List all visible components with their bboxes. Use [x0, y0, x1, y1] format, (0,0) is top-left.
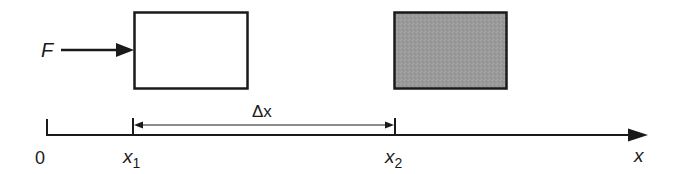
displacement-arrow-icon: [134, 122, 394, 129]
axis-label: x: [633, 145, 645, 166]
x1-label: x1: [122, 146, 141, 171]
force-label: F: [41, 39, 55, 61]
initial-block: [135, 13, 248, 89]
origin-label: 0: [35, 148, 45, 168]
force-arrow-icon: [61, 43, 134, 57]
final-block: [395, 13, 507, 89]
work-displacement-diagram: F Δx 0 x1 x2 x: [0, 0, 675, 174]
x1-label-sub: 1: [133, 155, 141, 171]
displacement-label: Δx: [252, 102, 272, 121]
x-axis: [46, 129, 648, 142]
x2-label-sub: 2: [395, 155, 403, 171]
axis-arrowhead-icon: [628, 129, 648, 142]
x2-label: x2: [384, 146, 403, 171]
